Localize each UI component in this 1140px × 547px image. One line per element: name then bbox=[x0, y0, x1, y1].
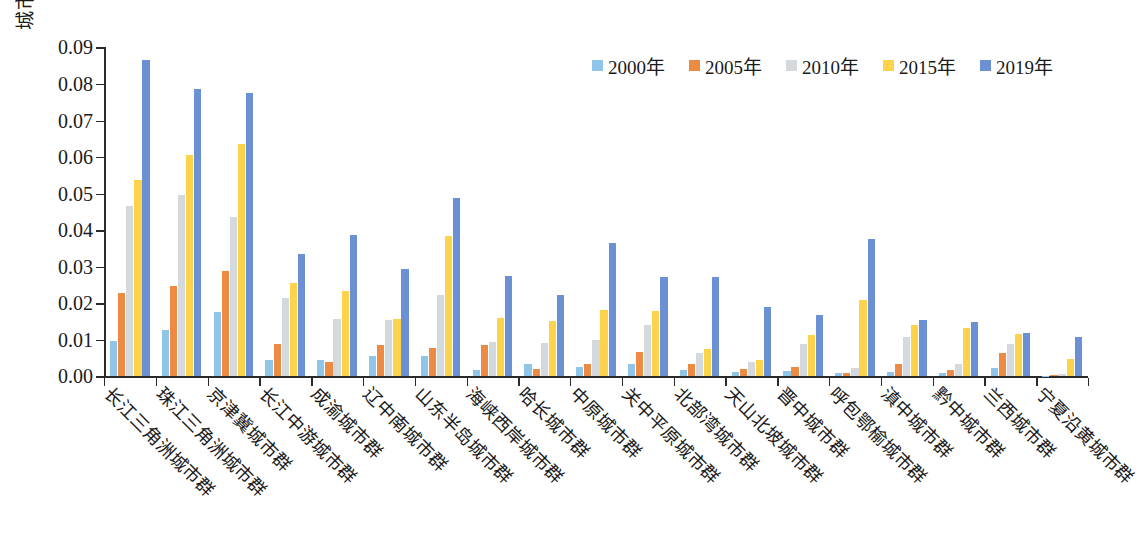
y-axis-title: 城市群功能多中心性 bbox=[10, 0, 38, 90]
bar bbox=[178, 195, 185, 376]
legend-item-2005年[interactable]: 2005年 bbox=[689, 52, 762, 79]
legend-item-2000年[interactable]: 2000年 bbox=[592, 52, 665, 79]
legend-label: 2010年 bbox=[802, 52, 859, 79]
bar-group bbox=[628, 47, 668, 376]
bar bbox=[473, 370, 480, 376]
y-tick-mark bbox=[96, 47, 104, 48]
bar bbox=[1067, 359, 1074, 377]
bar bbox=[971, 322, 978, 376]
bar bbox=[246, 93, 253, 377]
bar bbox=[290, 283, 297, 376]
bar bbox=[222, 271, 229, 376]
bar bbox=[317, 360, 324, 376]
bar bbox=[385, 320, 392, 377]
bar bbox=[557, 295, 564, 377]
bar bbox=[843, 373, 850, 376]
bar bbox=[783, 371, 790, 376]
y-tick-mark bbox=[96, 121, 104, 122]
bar bbox=[704, 349, 711, 377]
y-tick-mark bbox=[96, 303, 104, 304]
y-tick-mark bbox=[96, 376, 104, 377]
y-tick-label: 0.08 bbox=[58, 72, 93, 95]
bar bbox=[592, 340, 599, 377]
legend-item-2019年[interactable]: 2019年 bbox=[980, 52, 1053, 79]
legend-label: 2015年 bbox=[899, 52, 956, 79]
bar bbox=[680, 370, 687, 377]
y-tick-mark bbox=[96, 267, 104, 268]
bar bbox=[712, 277, 719, 377]
bar bbox=[740, 369, 747, 376]
bar bbox=[764, 307, 771, 376]
y-tick-label: 0.00 bbox=[58, 365, 93, 388]
legend-swatch-icon bbox=[980, 60, 991, 71]
bar bbox=[342, 291, 349, 377]
bar bbox=[170, 286, 177, 377]
bar bbox=[800, 344, 807, 376]
bar-group bbox=[835, 47, 875, 376]
y-axis-line bbox=[104, 47, 106, 378]
bar bbox=[991, 368, 998, 377]
y-tick-mark bbox=[96, 84, 104, 85]
bar bbox=[584, 364, 591, 377]
bar bbox=[652, 311, 659, 376]
bar bbox=[955, 364, 962, 376]
legend-item-2015年[interactable]: 2015年 bbox=[883, 52, 956, 79]
bar-group bbox=[214, 47, 254, 376]
bar bbox=[868, 239, 875, 377]
bar bbox=[895, 364, 902, 377]
bar-group bbox=[576, 47, 616, 376]
bar bbox=[1042, 376, 1049, 377]
bar bbox=[1050, 375, 1057, 376]
bar bbox=[816, 315, 823, 376]
bar bbox=[947, 370, 954, 377]
bar bbox=[696, 353, 703, 376]
bar bbox=[644, 325, 651, 376]
bar bbox=[533, 369, 540, 376]
x-tick-mark bbox=[1088, 378, 1089, 386]
bar bbox=[393, 319, 400, 376]
bar bbox=[688, 364, 695, 377]
bar-group bbox=[421, 47, 461, 376]
bar-group bbox=[680, 47, 720, 376]
legend-swatch-icon bbox=[592, 60, 603, 71]
y-tick-mark bbox=[96, 157, 104, 158]
bar bbox=[126, 206, 133, 376]
bar-group bbox=[473, 47, 513, 376]
bar bbox=[421, 356, 428, 377]
y-tick-mark bbox=[96, 230, 104, 231]
bar bbox=[939, 373, 946, 377]
bar bbox=[118, 293, 125, 376]
bar-group bbox=[110, 47, 150, 376]
bar bbox=[919, 320, 926, 376]
bar bbox=[238, 144, 245, 377]
bar bbox=[859, 300, 866, 376]
legend-item-2010年[interactable]: 2010年 bbox=[786, 52, 859, 79]
bar bbox=[732, 372, 739, 376]
bar bbox=[298, 254, 305, 377]
legend-swatch-icon bbox=[786, 60, 797, 71]
y-tick-label: 0.07 bbox=[58, 109, 93, 132]
legend-label: 2000年 bbox=[608, 52, 665, 79]
bar bbox=[110, 341, 117, 377]
y-tick-mark bbox=[96, 194, 104, 195]
bar-group bbox=[265, 47, 305, 376]
bar bbox=[194, 89, 201, 377]
x-axis-labels: 长江三角洲城市群珠江三角洲城市群京津冀城市群长江中游城市群成渝城市群辽中南城市群… bbox=[104, 380, 1088, 547]
bar bbox=[230, 217, 237, 377]
bar bbox=[851, 368, 858, 376]
legend-swatch-icon bbox=[689, 60, 700, 71]
bar bbox=[887, 372, 894, 376]
bar bbox=[134, 180, 141, 376]
bar bbox=[350, 235, 357, 376]
bar bbox=[481, 345, 488, 376]
bar-group bbox=[317, 47, 357, 376]
bar bbox=[636, 352, 643, 376]
bar bbox=[142, 60, 149, 377]
bar bbox=[265, 360, 272, 377]
bar bbox=[489, 342, 496, 377]
bar bbox=[903, 337, 910, 376]
legend-label: 2019年 bbox=[996, 52, 1053, 79]
bar bbox=[999, 353, 1006, 377]
bar bbox=[576, 367, 583, 377]
